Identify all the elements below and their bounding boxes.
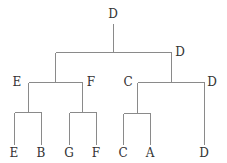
leaf-label: A bbox=[145, 146, 155, 160]
leaf-label: B bbox=[37, 146, 46, 160]
node-label-right-subtree: D bbox=[175, 45, 185, 59]
leaf-label: G bbox=[64, 146, 74, 160]
dendrogram: D D E F C D E B G F C A D bbox=[0, 0, 227, 163]
node-label-right-right: D bbox=[207, 75, 217, 89]
leaf-label: F bbox=[92, 146, 100, 160]
node-label-right-left: C bbox=[123, 75, 132, 89]
tree-edges bbox=[15, 24, 205, 145]
node-label-root: D bbox=[108, 7, 118, 21]
leaf-label: C bbox=[118, 146, 127, 160]
leaf-label: E bbox=[10, 146, 19, 160]
node-label-left-right: F bbox=[87, 75, 95, 89]
leaf-label: D bbox=[199, 146, 209, 160]
node-label-left-left: E bbox=[13, 75, 22, 89]
